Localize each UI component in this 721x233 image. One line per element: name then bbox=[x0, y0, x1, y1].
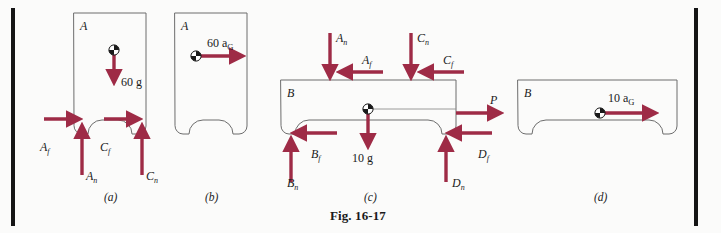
force-label-An: An bbox=[86, 170, 97, 185]
panel-sublabel-d: (d) bbox=[594, 192, 607, 204]
center-of-mass-marker-b bbox=[191, 51, 201, 61]
force-label-Df: Df bbox=[478, 148, 489, 163]
force-label-60aG: 60 aG bbox=[207, 37, 233, 52]
force-label-Bn: Bn bbox=[287, 177, 298, 192]
force-label-Dn: Dn bbox=[452, 177, 465, 192]
figure-page: A 60 g Af An Cf Cn (a) A 60 aG (b) B An … bbox=[0, 0, 721, 233]
body-label-a: A bbox=[80, 20, 87, 32]
force-label-Cf: Cf bbox=[100, 141, 110, 156]
force-label-Bf: Bf bbox=[311, 148, 321, 163]
force-label-Af: Af bbox=[40, 141, 50, 156]
panel-sublabel-c: (c) bbox=[364, 192, 377, 204]
center-of-mass-marker-c bbox=[363, 104, 373, 114]
panel-sublabel-b: (b) bbox=[205, 192, 218, 204]
panel-sublabel-a: (a) bbox=[104, 192, 117, 204]
force-label-P: P bbox=[490, 94, 497, 106]
force-label-Cn: Cn bbox=[146, 170, 158, 185]
body-outline-d bbox=[518, 80, 677, 134]
center-of-mass-marker-d bbox=[595, 108, 605, 118]
force-label-Cf-c: Cf bbox=[443, 54, 453, 69]
force-label-An-c: An bbox=[336, 32, 347, 47]
force-label-weight-60g: 60 g bbox=[121, 76, 142, 88]
force-label-Af-c: Af bbox=[362, 54, 372, 69]
force-label-Cn-c: Cn bbox=[417, 32, 429, 47]
figure-caption: Fig. 16-17 bbox=[330, 209, 386, 222]
body-label-d: B bbox=[524, 87, 531, 99]
force-label-10aG: 10 aG bbox=[608, 92, 634, 107]
body-label-c: B bbox=[287, 87, 294, 99]
body-label-b: A bbox=[181, 20, 188, 32]
force-label-weight-10g: 10 g bbox=[352, 152, 373, 164]
center-of-mass-marker-a bbox=[109, 45, 119, 55]
